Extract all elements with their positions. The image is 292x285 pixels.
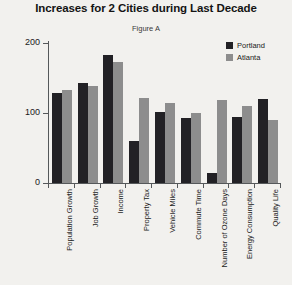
x-tick [48,184,49,188]
bar-group [129,43,149,183]
x-tick [203,184,204,188]
bar-portland [78,83,88,183]
legend-swatch-icon [226,54,233,61]
bar-group [181,43,201,183]
x-category-label: Job Growth [91,189,100,227]
bar-portland [207,173,217,184]
bar-atlanta [268,120,278,183]
x-category-label: Income [116,189,125,214]
bar-portland [155,112,165,183]
bar-atlanta [165,103,175,184]
bar-portland [181,118,191,183]
bar-group [103,43,123,183]
x-category-label: Population Growth [65,189,74,251]
x-tick [228,184,229,188]
bar-group [155,43,175,183]
x-category-label: Property Tax [142,189,151,231]
x-tick [74,184,75,188]
y-tick-label-0: 0 [35,177,40,187]
bar-portland [103,55,113,183]
legend-item-portland[interactable]: Portland [226,41,265,50]
bar-atlanta [217,100,227,183]
legend-label: Portland [237,41,265,50]
bar-atlanta [191,113,201,183]
y-tick-label-100: 100 [25,107,40,117]
legend-label: Atlanta [237,53,260,62]
bar-atlanta [62,90,72,183]
y-axis-title: Growth Index [0,66,1,111]
chart-title: Increases for 2 Cities during Last Decad… [0,2,292,14]
chart-legend: PortlandAtlanta [226,41,265,65]
bar-group [52,43,72,183]
bar-atlanta [139,98,149,183]
bar-portland [258,99,268,183]
bar-portland [232,117,242,184]
bar-atlanta [242,106,252,183]
bar-portland [52,93,62,183]
x-tick [125,184,126,188]
bar-atlanta [88,86,98,183]
x-category-label: Commute Time [194,189,203,240]
bar-atlanta [113,62,123,183]
legend-swatch-icon [226,42,233,49]
x-axis-line [48,183,281,184]
legend-item-atlanta[interactable]: Atlanta [226,53,265,62]
chart-container: Increases for 2 Cities during Last Decad… [0,0,292,285]
bar-portland [129,141,139,183]
bar-group [78,43,98,183]
chart-subtitle: Figure A [0,24,292,33]
x-category-label: Energy Consumption [245,189,254,259]
x-tick [100,184,101,188]
x-category-label: Quality Life [271,189,280,227]
x-category-label: Vehicle Miles [168,189,177,233]
x-tick [254,184,255,188]
x-tick [151,184,152,188]
x-tick [280,184,281,188]
x-tick [177,184,178,188]
bar-group [207,43,227,183]
y-tick-label-200: 200 [25,37,40,47]
x-category-label: Number of Ozone Days [220,189,229,267]
